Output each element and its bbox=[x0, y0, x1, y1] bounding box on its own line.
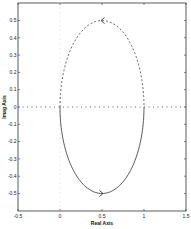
plot-frame bbox=[18, 3, 186, 211]
y-tick-label: -0.2 bbox=[8, 138, 17, 144]
y-tick-label: -0.5 bbox=[8, 190, 17, 196]
x-axis-label: Real Axis bbox=[91, 220, 114, 226]
y-tick-label: 0.2 bbox=[10, 69, 17, 75]
x-tick-label: 1 bbox=[143, 213, 146, 219]
x-tick-label: 0.5 bbox=[99, 213, 106, 219]
x-tick-label: 0 bbox=[59, 213, 62, 219]
y-tick-label: 0.3 bbox=[10, 52, 17, 58]
y-tick-label: 0.5 bbox=[10, 17, 17, 23]
y-axis-ticks: 0.50.40.30.20.10-0.1-0.2-0.3-0.4-0.5 bbox=[8, 17, 186, 196]
x-axis-ticks: -0.500.511.5 bbox=[14, 3, 190, 219]
y-tick-label: -0.4 bbox=[8, 173, 17, 179]
y-tick-label: 0.1 bbox=[10, 86, 17, 92]
y-tick-label: 0.4 bbox=[10, 35, 17, 41]
y-tick-label: 0 bbox=[14, 104, 17, 110]
nyquist-chart: -0.500.511.5 0.50.40.30.20.10-0.1-0.2-0.… bbox=[0, 0, 191, 229]
positive-frequency-curve bbox=[60, 107, 144, 194]
negative-frequency-curve bbox=[60, 21, 144, 108]
x-tick-label: 1.5 bbox=[183, 213, 190, 219]
y-tick-label: -0.3 bbox=[8, 156, 17, 162]
y-axis-label: Imag Axis bbox=[1, 95, 7, 119]
x-tick-label: -0.5 bbox=[14, 213, 23, 219]
y-tick-label: -0.1 bbox=[8, 121, 17, 127]
